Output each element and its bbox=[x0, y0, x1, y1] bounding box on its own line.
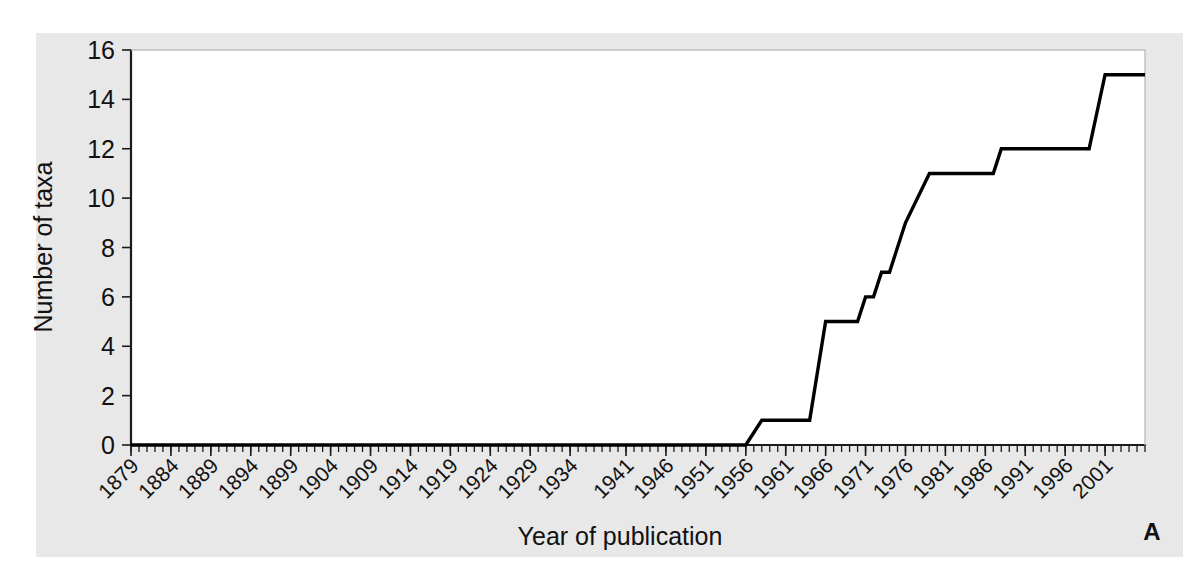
x-tick-label: 2001 bbox=[1068, 454, 1117, 503]
x-tick-label: 1909 bbox=[333, 454, 382, 503]
x-tick-label: 1884 bbox=[133, 453, 183, 503]
x-axis-tick-labels: 1879188418891894189919041909191419191924… bbox=[94, 453, 1117, 503]
y-tick-label: 12 bbox=[87, 135, 115, 163]
x-tick-label: 1934 bbox=[533, 453, 583, 503]
y-tick-label: 16 bbox=[87, 36, 115, 64]
x-tick-label: 1951 bbox=[668, 454, 717, 503]
x-tick-label: 1894 bbox=[213, 453, 263, 503]
x-tick-label: 1996 bbox=[1028, 454, 1077, 503]
x-tick-label: 1961 bbox=[748, 454, 797, 503]
x-tick-label: 1889 bbox=[173, 454, 222, 503]
y-tick-label: 8 bbox=[101, 234, 115, 262]
y-axis-ticks bbox=[122, 50, 131, 445]
x-tick-label: 1919 bbox=[413, 454, 462, 503]
y-tick-label: 2 bbox=[101, 382, 115, 410]
x-tick-label: 1879 bbox=[94, 454, 143, 503]
x-tick-label: 1904 bbox=[293, 453, 343, 503]
x-axis-label: Year of publication bbox=[518, 522, 723, 550]
x-tick-label: 1976 bbox=[868, 454, 917, 503]
x-tick-label: 1914 bbox=[373, 453, 423, 503]
x-tick-label: 1971 bbox=[828, 454, 877, 503]
x-tick-label: 1981 bbox=[908, 454, 957, 503]
y-tick-label: 4 bbox=[101, 332, 115, 360]
x-tick-label: 1956 bbox=[708, 454, 757, 503]
plot-area bbox=[131, 50, 1145, 445]
x-tick-label: 1924 bbox=[453, 453, 503, 503]
y-tick-label: 14 bbox=[87, 85, 115, 113]
panel-label: A bbox=[1143, 518, 1160, 545]
x-tick-label: 1991 bbox=[988, 454, 1037, 503]
y-tick-label: 6 bbox=[101, 283, 115, 311]
chart-svg: 0246810121416 18791884188918941899190419… bbox=[0, 0, 1202, 587]
x-tick-label: 1966 bbox=[788, 454, 837, 503]
y-axis-tick-labels: 0246810121416 bbox=[87, 36, 115, 459]
x-tick-label: 1929 bbox=[493, 454, 542, 503]
figure-panel: 0246810121416 18791884188918941899190419… bbox=[0, 0, 1202, 587]
y-tick-label: 0 bbox=[101, 431, 115, 459]
x-tick-label: 1899 bbox=[253, 454, 302, 503]
x-tick-label: 1941 bbox=[589, 454, 638, 503]
y-tick-label: 10 bbox=[87, 184, 115, 212]
y-axis-label: Number of taxa bbox=[29, 161, 57, 332]
x-tick-label: 1986 bbox=[948, 454, 997, 503]
x-tick-label: 1946 bbox=[628, 454, 677, 503]
